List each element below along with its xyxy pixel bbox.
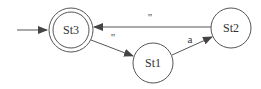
transition-st1-st2[interactable]: a <box>172 33 212 55</box>
transition-st1-st2-label: a <box>188 33 193 45</box>
fsa-diagram: St3 St1 St2 " " a <box>0 0 261 89</box>
state-st2-label: St2 <box>223 21 239 35</box>
transition-st3-st1[interactable]: " <box>91 31 133 56</box>
transition-st2-st3[interactable]: " <box>94 11 211 27</box>
state-st2[interactable]: St2 <box>211 8 251 48</box>
state-st1-label: St1 <box>145 56 161 70</box>
transition-st3-st1-label: " <box>111 31 116 43</box>
state-st3-label: St3 <box>63 23 79 37</box>
state-st1[interactable]: St1 <box>133 43 173 83</box>
transition-st2-st3-label: " <box>148 11 153 23</box>
state-st3[interactable]: St3 <box>49 8 93 52</box>
